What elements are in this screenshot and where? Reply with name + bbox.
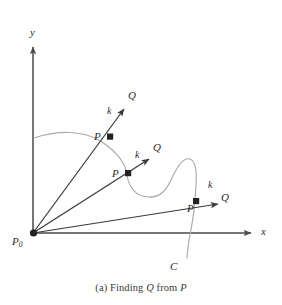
origin-label: P0 — [12, 236, 22, 247]
diagram-canvas — [0, 0, 282, 305]
vector-1-point-label: P — [94, 131, 101, 142]
y-axis-label: y — [30, 27, 35, 38]
vector-1-group — [33, 109, 124, 233]
vector-2-point-marker — [125, 170, 131, 176]
caption-p: P — [180, 282, 187, 293]
vector-3-tip-label: Q — [221, 192, 229, 203]
vector-2-shaft — [33, 159, 149, 233]
vector-3-point-label: P — [187, 203, 194, 214]
vector-2-group — [33, 159, 149, 233]
vector-2-point-label: P — [112, 168, 119, 179]
origin-point-marker — [30, 229, 37, 236]
origin-label-subscript: 0 — [19, 240, 23, 249]
vector-1-point-marker — [107, 134, 113, 140]
x-axis-label: x — [261, 226, 266, 237]
vector-3-direction-label: k — [208, 180, 212, 190]
curve-label-c: C — [170, 261, 177, 272]
figure-container: y x P0 C P k Q P k Q P k Q (a) Finding Q… — [0, 0, 282, 305]
origin-label-letter: P — [12, 235, 19, 247]
vector-1-direction-label: k — [107, 106, 111, 116]
curve-c-path — [34, 132, 196, 258]
vector-2-direction-label: k — [135, 150, 139, 160]
caption-prefix: (a) Finding — [95, 282, 143, 293]
vector-1-shaft — [33, 109, 124, 233]
caption-q: Q — [146, 282, 154, 293]
caption-mid: from — [157, 282, 178, 293]
curve-c — [34, 132, 196, 258]
vector-2-tip-label: Q — [153, 142, 161, 153]
axes-group — [33, 47, 251, 233]
vector-1-tip-label: Q — [128, 90, 136, 101]
figure-caption: (a) Finding Q from P — [0, 282, 282, 293]
